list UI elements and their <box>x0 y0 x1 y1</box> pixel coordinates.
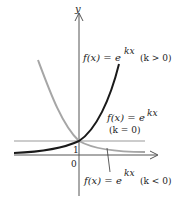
svg-text:f(x) = e: f(x) = e <box>83 175 122 186</box>
curve-k-positive <box>14 64 119 153</box>
svg-text:f(x) = e: f(x) = e <box>82 52 121 63</box>
exponential-diagram: y 1 0 f(x) = e kx (k > 0) f(x) = e kx (k… <box>0 0 180 208</box>
svg-text:kx: kx <box>124 168 135 178</box>
y-axis-label: y <box>74 3 81 14</box>
curve-k-negative <box>38 60 145 152</box>
svg-text:kx: kx <box>147 108 158 118</box>
one-label: 1 <box>73 145 79 155</box>
svg-text:f(x) = e: f(x) = e <box>106 112 145 123</box>
label-k-zero: f(x) = e kx (k = 0) <box>106 108 158 135</box>
svg-text:kx: kx <box>124 46 135 56</box>
label-k-positive: f(x) = e kx (k > 0) <box>82 46 171 63</box>
origin-label: 0 <box>71 159 77 169</box>
label-k-negative: f(x) = e kx (k < 0) <box>83 168 171 186</box>
svg-text:(k = 0): (k = 0) <box>109 125 140 135</box>
svg-text:(k > 0): (k > 0) <box>140 53 171 63</box>
svg-text:(k < 0): (k < 0) <box>140 176 171 186</box>
leader-line-k-negative <box>107 148 110 172</box>
